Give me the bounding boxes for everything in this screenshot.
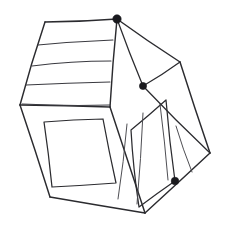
right-wall-slat-line-2 xyxy=(137,113,143,204)
right-wall-slat-lines xyxy=(118,104,192,204)
eave-vertex xyxy=(139,82,146,89)
left-wall-left-edge xyxy=(20,105,50,197)
left-wall-bottom-edge xyxy=(50,197,145,213)
right-gable-edge xyxy=(117,19,180,62)
roof-shingle-line-1 xyxy=(38,40,113,45)
roof-shingle-line-2 xyxy=(32,61,111,66)
base-right-vertex xyxy=(171,177,179,185)
sketch-canvas xyxy=(0,0,228,235)
left-wall-window xyxy=(44,119,116,187)
house-sketch-drawing xyxy=(0,0,228,235)
roof-ridge-top-edge xyxy=(45,19,117,22)
vertex-dot-layer xyxy=(113,15,179,185)
roof-face-group xyxy=(20,19,117,107)
left-wall-face-group xyxy=(20,105,145,213)
roof-shingle-line-3 xyxy=(26,82,110,85)
roof-hip-edge xyxy=(110,19,117,107)
roof-left-slope-edge xyxy=(20,22,45,105)
right-wall-face-group xyxy=(117,19,210,213)
right-wall-eave-line xyxy=(143,62,180,86)
apex-vertex xyxy=(113,15,121,23)
right-wall-fold-line xyxy=(143,86,210,153)
